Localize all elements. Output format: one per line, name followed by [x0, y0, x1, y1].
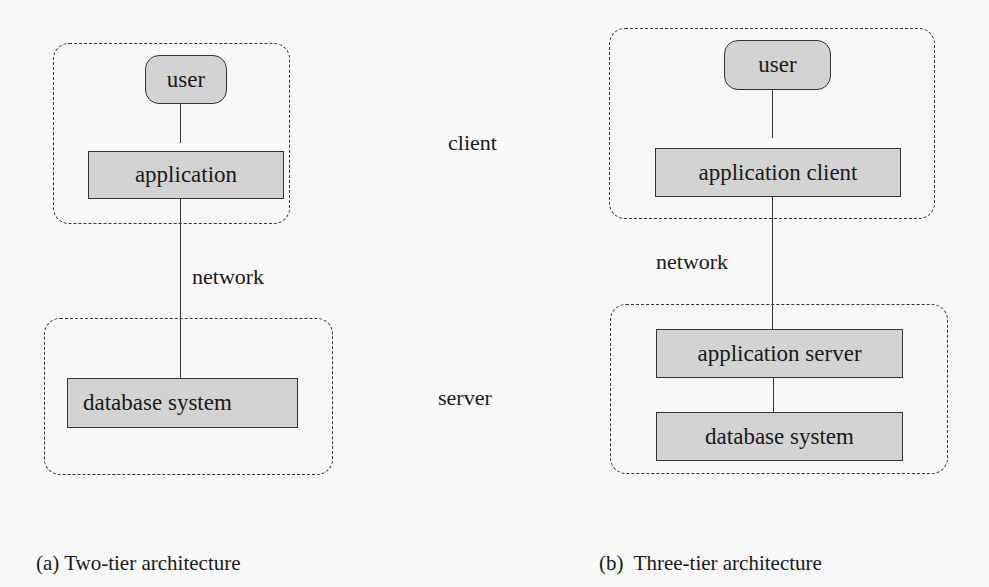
three-tier-edge-appclient-appserver — [772, 196, 773, 330]
client-tier-label: client — [448, 130, 497, 156]
two-tier-edge-user-application — [180, 103, 181, 143]
three-tier-edge-user-appclient — [772, 88, 773, 138]
server-tier-label: server — [438, 385, 492, 411]
user-label: user — [167, 67, 205, 93]
application-label: application — [135, 162, 237, 188]
three-tier-database-node: database system — [656, 412, 903, 461]
three-tier-user-node: user — [724, 40, 831, 90]
three-tier-application-client-node: application client — [655, 148, 901, 197]
two-tier-edge-application-database — [180, 199, 181, 380]
three-tier-application-server-node: application server — [656, 329, 903, 378]
two-tier-network-label: network — [192, 264, 264, 290]
two-tier-application-node: application — [88, 151, 284, 199]
two-tier-database-node: database system — [67, 378, 298, 428]
database-system-label: database system — [705, 424, 854, 450]
application-client-label: application client — [698, 160, 857, 186]
two-tier-caption: (a) Two-tier architecture — [36, 551, 241, 576]
two-tier-user-node: user — [145, 55, 227, 104]
three-tier-network-label: network — [656, 249, 728, 275]
three-tier-edge-appserver-database — [773, 378, 774, 412]
user-label: user — [758, 52, 796, 78]
application-server-label: application server — [697, 341, 861, 367]
database-system-label: database system — [83, 390, 232, 416]
three-tier-caption: (b) Three-tier architecture — [599, 551, 822, 576]
